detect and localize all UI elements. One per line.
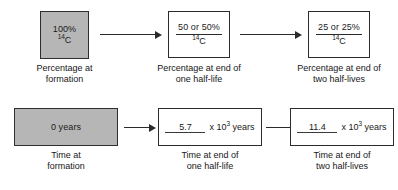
caption-line-1: Time at end of bbox=[150, 150, 270, 161]
caption-line-2: one half-life bbox=[140, 74, 258, 85]
time-one-half-life-caption: Time at end of one half-life bbox=[150, 150, 270, 172]
time-two-half-lives-box: 11.4x 103 years bbox=[290, 108, 394, 146]
caption-line-2: two half-lives bbox=[280, 74, 398, 85]
carbon-14-label: 14C bbox=[58, 35, 72, 46]
percentage-at-formation-caption: Percentage at formation bbox=[12, 63, 117, 85]
caption-line-1: Percentage at bbox=[12, 63, 117, 74]
units-prefix: x 10 bbox=[341, 122, 358, 132]
time-at-formation-value: 0 years bbox=[49, 122, 83, 133]
time-two-half-lives-answer-row: 11.4x 103 years bbox=[297, 122, 386, 133]
nuclide-mass-number: 14 bbox=[58, 33, 65, 40]
caption-line-2: formation bbox=[12, 74, 117, 85]
caption-line-2: formation bbox=[13, 161, 119, 172]
time-one-half-life-box: 5.7x 103 years bbox=[158, 108, 262, 146]
percentage-one-half-life-box: 50 or 50% 14C bbox=[168, 11, 230, 58]
time-one-half-life-answer-row: 5.7x 103 years bbox=[165, 122, 254, 133]
percentage-one-half-life-fraction: 50 or 50% 14C bbox=[176, 22, 222, 47]
percentage-one-half-life-caption: Percentage at end of one half-life bbox=[140, 63, 258, 85]
time-one-half-life-blank[interactable]: 5.7 bbox=[165, 122, 205, 133]
caption-line-2: two half-lives bbox=[282, 161, 398, 172]
nuclide-symbol: C bbox=[65, 35, 72, 45]
time-at-formation-box: 0 years bbox=[14, 108, 118, 146]
percentage-two-half-lives-fraction: 25 or 25% 14C bbox=[316, 22, 362, 47]
nuclide-symbol: C bbox=[339, 36, 346, 46]
percentage-two-half-lives-caption: Percentage at end of two half-lives bbox=[280, 63, 398, 85]
time-two-half-lives-caption: Time at end of two half-lives bbox=[282, 150, 398, 172]
percentage-at-formation-box: 100% 14C bbox=[40, 11, 89, 59]
units-prefix: x 10 bbox=[209, 122, 226, 132]
caption-line-1: Percentage at end of bbox=[280, 63, 398, 74]
caption-line-1: Percentage at end of bbox=[140, 63, 258, 74]
caption-line-1: Time at end of bbox=[282, 150, 398, 161]
arrow-right-icon bbox=[240, 30, 302, 39]
caption-line-2: one half-life bbox=[150, 161, 270, 172]
half-life-diagram: 100% 14C Percentage at formation 50 or 5… bbox=[0, 0, 398, 190]
arrow-right-icon bbox=[100, 30, 162, 39]
carbon-14-label: 14C bbox=[332, 36, 346, 47]
units-suffix: years bbox=[365, 122, 387, 132]
arrow-right-icon bbox=[124, 123, 156, 132]
time-two-half-lives-blank[interactable]: 11.4 bbox=[297, 122, 337, 133]
percentage-two-half-lives-box: 25 or 25% 14C bbox=[308, 11, 370, 58]
time-at-formation-caption: Time at formation bbox=[13, 150, 119, 172]
time-one-half-life-units: x 103 years bbox=[209, 122, 254, 132]
units-exponent: 3 bbox=[226, 120, 230, 127]
carbon-14-label: 14C bbox=[192, 36, 206, 47]
units-suffix: years bbox=[233, 122, 255, 132]
time-two-half-lives-units: x 103 years bbox=[341, 122, 386, 132]
units-exponent: 3 bbox=[358, 120, 362, 127]
nuclide-symbol: C bbox=[199, 36, 206, 46]
caption-line-1: Time at bbox=[13, 150, 119, 161]
